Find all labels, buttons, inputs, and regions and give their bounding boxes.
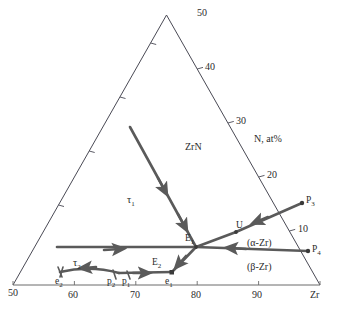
diagram-canvas bbox=[0, 0, 339, 322]
arrow-tau1-tau2 bbox=[104, 249, 120, 250]
phase-label-tau1: τ1 bbox=[127, 195, 135, 208]
arrow-zrn-tau1-upper bbox=[158, 178, 165, 191]
apex-tick-label: 50 bbox=[197, 8, 207, 18]
right-tick-20: 20 bbox=[267, 170, 277, 180]
left-axis-ticks bbox=[59, 43, 157, 207]
bottom-tick-90: 90 bbox=[252, 290, 262, 300]
bottom-corner-50: 50 bbox=[8, 288, 18, 298]
point-label-e2-low: e2 bbox=[55, 277, 63, 289]
phase-label-tau2: τ2 bbox=[73, 258, 81, 271]
right-tick-10: 10 bbox=[298, 224, 308, 234]
point-label-p1: p1 bbox=[122, 277, 130, 289]
right-tick-40: 40 bbox=[205, 62, 215, 72]
tau2-subscript: 2 bbox=[77, 263, 81, 271]
n-axis-title: N, at% bbox=[254, 134, 282, 144]
tau1-subscript: 1 bbox=[131, 200, 135, 208]
e1-cap-subscript: 1 bbox=[191, 238, 195, 246]
point-label-p2: p2 bbox=[107, 277, 115, 289]
bottom-tick-60: 60 bbox=[68, 290, 78, 300]
point-label-p4: P4 bbox=[312, 245, 321, 257]
point-label-u: U bbox=[236, 221, 243, 231]
arrow-zrn-tau1-lower bbox=[178, 214, 185, 227]
p3-subscript: 3 bbox=[311, 200, 315, 208]
triangle-outline bbox=[13, 15, 320, 285]
e2-cap-subscript: 2 bbox=[158, 262, 162, 270]
dot-u bbox=[234, 230, 238, 234]
p1-subscript: 1 bbox=[127, 281, 131, 289]
e2-low-subscript: 2 bbox=[59, 281, 63, 289]
point-label-e1-cap: E1 bbox=[185, 234, 194, 246]
phase-label-zrn: ZrN bbox=[185, 142, 202, 152]
point-label-p3: P3 bbox=[306, 196, 315, 208]
arrow-p4-e1 bbox=[230, 248, 246, 249]
dot-p3 bbox=[300, 201, 304, 205]
dot-e1-low bbox=[170, 270, 175, 275]
point-label-e2-cap: E2 bbox=[152, 258, 161, 270]
right-axis-ticks bbox=[197, 67, 295, 231]
e1-low-subscript: 1 bbox=[169, 281, 173, 289]
ternary-phase-diagram: 50 40 30 20 10 N, at% ZrN τ1 τ2 (α-Zr) (… bbox=[0, 0, 339, 322]
boundary-e2low-e2 bbox=[60, 269, 119, 273]
bottom-corner-zr: Zr bbox=[310, 290, 319, 300]
bottom-tick-70: 70 bbox=[130, 290, 140, 300]
point-label-e1-low: e1 bbox=[165, 277, 173, 289]
p2-subscript: 2 bbox=[112, 281, 116, 289]
bottom-tick-80: 80 bbox=[191, 290, 201, 300]
dot-p4 bbox=[306, 249, 310, 253]
phase-label-alpha-zr: (α-Zr) bbox=[247, 238, 272, 248]
right-tick-30: 30 bbox=[236, 116, 246, 126]
boundary-u-e1 bbox=[196, 232, 236, 247]
p4-subscript: 4 bbox=[317, 249, 321, 257]
dot-e1 bbox=[194, 245, 198, 249]
monovariant-lines bbox=[57, 127, 308, 279]
arrow-e2low-e2 bbox=[84, 267, 96, 268]
phase-label-beta-zr: (β-Zr) bbox=[247, 262, 272, 272]
